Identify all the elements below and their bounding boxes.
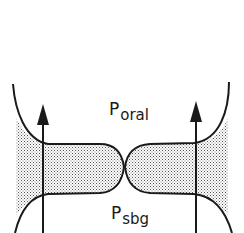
- oral-pressure-label: Poral: [109, 99, 149, 119]
- subglottal-pressure-subscript: sbg: [122, 210, 149, 228]
- subglottal-pressure-label: Psbg: [111, 203, 149, 223]
- oral-pressure-symbol: P: [109, 99, 119, 119]
- subglottal-pressure-symbol: P: [111, 203, 121, 223]
- oral-pressure-subscript: oral: [120, 106, 149, 124]
